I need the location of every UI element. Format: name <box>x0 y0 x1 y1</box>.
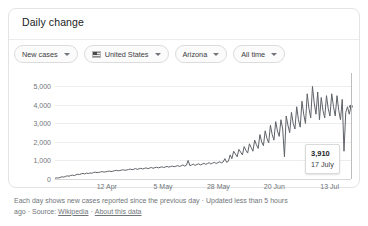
footer-source-label: Source: <box>32 208 56 215</box>
filter-chip-timerange[interactable]: All time <box>233 45 285 63</box>
chevron-down-icon <box>271 53 277 56</box>
filter-chip-metric[interactable]: New cases <box>14 45 78 63</box>
chart-card: Daily change New cases United States Ari… <box>8 8 360 188</box>
tooltip-value: 3,910 <box>311 148 334 159</box>
x-axis-tick-label: 13 Jul <box>320 183 339 190</box>
source-wikipedia-link[interactable]: Wikipedia <box>58 208 88 215</box>
chevron-down-icon <box>213 53 219 56</box>
filter-chip-country[interactable]: United States <box>84 45 169 63</box>
chart-footer: Each day shows new cases reported since … <box>14 196 358 217</box>
y-axis-tick-label: 5,000 <box>33 83 51 90</box>
y-axis-tick-label: 2,000 <box>33 138 51 145</box>
chart-grid: 01,0002,0003,0004,0005,00012 Apr5 May28 … <box>55 79 351 179</box>
filter-chip-row: New cases United States Arizona All time <box>14 45 285 63</box>
chart-plot-area: 01,0002,0003,0004,0005,00012 Apr5 May28 … <box>9 71 361 189</box>
x-axis-tick-label: 20 Jun <box>264 183 285 190</box>
hover-cursor-line <box>351 73 352 179</box>
chevron-down-icon <box>155 53 161 56</box>
us-flag-icon <box>92 51 101 58</box>
filter-chip-region[interactable]: Arizona <box>175 45 228 63</box>
y-axis-tick-label: 1,000 <box>33 157 51 164</box>
axis-baseline <box>55 179 351 180</box>
chevron-down-icon <box>64 53 70 56</box>
filter-chip-country-label: United States <box>105 50 149 59</box>
footer-description: Each day shows new cases reported since … <box>14 197 200 204</box>
filter-chip-metric-label: New cases <box>22 50 58 59</box>
x-axis-tick-label: 28 May <box>207 183 230 190</box>
title-divider <box>9 39 359 40</box>
y-axis-tick-label: 4,000 <box>33 101 51 108</box>
y-axis-tick-label: 0 <box>47 176 51 183</box>
chart-tooltip: 3,91017 July <box>305 144 340 174</box>
x-axis-tick-label: 12 Apr <box>97 183 117 190</box>
covid-daily-change-widget: Daily change New cases United States Ari… <box>0 0 368 226</box>
tooltip-date: 17 July <box>311 159 334 170</box>
page-title: Daily change <box>22 16 84 28</box>
filter-chip-timerange-label: All time <box>241 50 265 59</box>
y-axis-tick-label: 3,000 <box>33 120 51 127</box>
about-this-data-link[interactable]: About this data <box>95 208 142 215</box>
x-axis-tick-label: 5 May <box>154 183 173 190</box>
filter-chip-region-label: Arizona <box>183 50 208 59</box>
